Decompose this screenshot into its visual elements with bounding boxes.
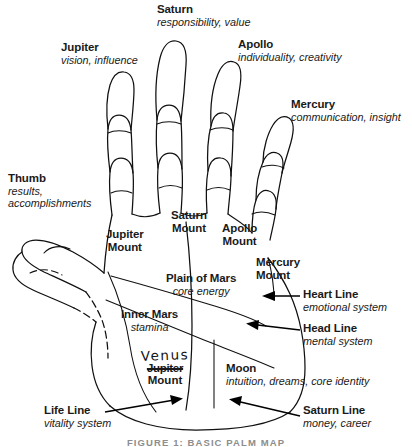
jupiter-label: Jupiter vision, influence	[61, 41, 138, 66]
thumb-subtitle: results,	[8, 185, 91, 197]
jupiter-title: Jupiter	[61, 41, 138, 54]
saturn-mount-line1: Saturn	[171, 209, 207, 222]
saturn-line-subtitle: money, career	[303, 417, 371, 429]
saturn-line-title: Saturn Line	[303, 404, 371, 417]
apollo-subtitle: individuality, creativity	[238, 51, 342, 63]
mercury-label: Mercury communication, insight	[291, 98, 401, 123]
venus-handwritten-text: Venus	[126, 346, 205, 365]
inner-mars-subtitle: stamina	[121, 321, 178, 333]
inner-mars-title: Inner Mars	[121, 308, 178, 321]
moon-title: Moon	[226, 362, 369, 375]
jupiter-mount-label: Jupiter Mount	[106, 228, 144, 254]
venus-mount-annotation: Venus Jupiter Mount	[126, 347, 204, 386]
apollo-title: Apollo	[238, 38, 342, 51]
thumb-label: Thumb results, accomplishments	[8, 172, 91, 209]
saturn-line-label: Saturn Line money, career	[303, 404, 371, 429]
moon-subtitle: intuition, dreams, core identity	[226, 375, 369, 387]
jupiter-subtitle: vision, influence	[61, 54, 138, 66]
mercury-title: Mercury	[291, 98, 401, 111]
head-line-label: Head Line mental system	[303, 322, 373, 347]
saturn-mount-line2: Mount	[171, 222, 207, 235]
life-line-label: Life Line vitality system	[44, 404, 111, 429]
saturn-mount-label: Saturn Mount	[171, 209, 207, 235]
heart-line-label: Heart Line emotional system	[303, 288, 387, 313]
saturn-line-arrow	[229, 396, 300, 416]
apollo-label: Apollo individuality, creativity	[238, 38, 342, 63]
life-line-subtitle: vitality system	[44, 417, 111, 429]
mercury-mount-line1: Mercury	[256, 256, 300, 269]
apollo-mount-label: Apollo Mount	[222, 222, 257, 248]
saturn-subtitle: responsibility, value	[157, 16, 250, 28]
figure-caption-text: FIGURE 1: BASIC PALM MAP	[0, 437, 412, 447]
plain-of-mars-subtitle: core energy	[166, 285, 236, 297]
mercury-mount-line2: Mount	[256, 269, 300, 282]
life-line-arrow	[105, 395, 183, 412]
saturn-label: Saturn responsibility, value	[157, 3, 250, 28]
jupiter-mount-line1: Jupiter	[106, 228, 144, 241]
apollo-mount-line1: Apollo	[222, 222, 257, 235]
plain-of-mars-label: Plain of Mars core energy	[166, 272, 236, 297]
plain-of-mars-title: Plain of Mars	[166, 272, 236, 285]
figure-caption: FIGURE 1: BASIC PALM MAP	[0, 437, 412, 447]
head-line-arrow	[246, 320, 300, 330]
mercury-mount-label: Mercury Mount	[256, 256, 300, 282]
moon-mount-label: Moon intuition, dreams, core identity	[226, 362, 369, 387]
thumb-title: Thumb	[8, 172, 91, 185]
head-line-subtitle: mental system	[303, 335, 373, 347]
mercury-subtitle: communication, insight	[291, 111, 401, 123]
saturn-title: Saturn	[157, 3, 250, 16]
jupiter-mount-line2: Mount	[106, 241, 144, 254]
life-line-title: Life Line	[44, 404, 111, 417]
heart-line-title: Heart Line	[303, 288, 387, 301]
apollo-mount-line2: Mount	[222, 235, 257, 248]
thumb-subtitle-2: accomplishments	[8, 197, 91, 209]
head-line-title: Head Line	[303, 322, 373, 335]
heart-line-arrow	[262, 291, 300, 301]
venus-mount-word: Mount	[126, 374, 204, 386]
heart-line-subtitle: emotional system	[303, 301, 387, 313]
inner-mars-label: Inner Mars stamina	[121, 308, 178, 333]
